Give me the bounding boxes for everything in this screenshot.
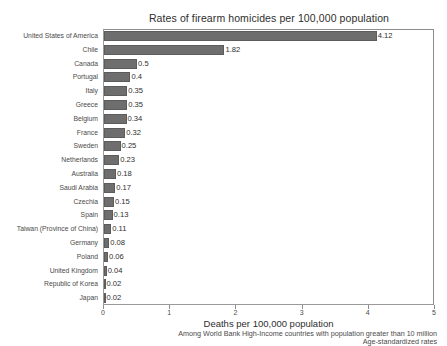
category-label: Czechia bbox=[0, 197, 98, 207]
bar bbox=[104, 59, 137, 69]
category-label: Poland bbox=[0, 252, 98, 262]
bar-row: 0.25 bbox=[104, 140, 433, 154]
bar-value-label: 0.32 bbox=[126, 127, 141, 138]
bar-value-label: 0.08 bbox=[110, 237, 125, 248]
bar-value-label: 0.34 bbox=[128, 113, 143, 124]
bar-row: 0.02 bbox=[104, 278, 433, 292]
category-label: Republic of Korea bbox=[0, 279, 98, 289]
bar-value-label: 1.82 bbox=[225, 44, 240, 55]
bar bbox=[104, 86, 127, 96]
category-label: Australia bbox=[0, 169, 98, 179]
bar-row: 0.08 bbox=[104, 237, 433, 251]
bar-row: 0.4 bbox=[104, 71, 433, 85]
bar-value-label: 0.4 bbox=[131, 71, 142, 82]
category-label: France bbox=[0, 128, 98, 138]
bar bbox=[104, 197, 114, 207]
category-label: Italy bbox=[0, 86, 98, 96]
category-label: Portugal bbox=[0, 72, 98, 82]
bar-value-label: 0.23 bbox=[120, 154, 135, 165]
bar bbox=[104, 72, 130, 82]
bar bbox=[104, 183, 115, 193]
category-label: Belgium bbox=[0, 114, 98, 124]
category-label: Sweden bbox=[0, 141, 98, 151]
bar-value-label: 0.35 bbox=[128, 85, 143, 96]
bar-row: 0.15 bbox=[104, 196, 433, 210]
category-label: United States of America bbox=[0, 31, 98, 41]
chart-title: Rates of firearm homicides per 100,000 p… bbox=[103, 12, 435, 24]
x-tick-label: 2 bbox=[233, 309, 237, 316]
bar bbox=[104, 266, 107, 276]
category-label: Japan bbox=[0, 293, 98, 303]
bar bbox=[104, 155, 119, 165]
bar-value-label: 0.06 bbox=[109, 251, 124, 262]
category-label: Germany bbox=[0, 238, 98, 248]
bar-row: 0.18 bbox=[104, 168, 433, 182]
category-label: Canada bbox=[0, 59, 98, 69]
bar-value-label: 0.5 bbox=[138, 58, 149, 69]
bar-value-label: 0.02 bbox=[107, 292, 122, 303]
x-tick-label: 4 bbox=[366, 309, 370, 316]
bar-row: 0.17 bbox=[104, 182, 433, 196]
footnote-line-2: Age-standardized rates bbox=[363, 337, 437, 346]
bar-value-label: 0.15 bbox=[115, 196, 130, 207]
x-tick-label: 3 bbox=[300, 309, 304, 316]
bar bbox=[104, 45, 224, 55]
bar-value-label: 0.35 bbox=[128, 99, 143, 110]
bar bbox=[104, 100, 127, 110]
bar bbox=[104, 224, 111, 234]
bar bbox=[104, 238, 109, 248]
bar-row: 0.06 bbox=[104, 251, 433, 265]
bar-value-label: 0.02 bbox=[107, 278, 122, 289]
bar-row: 0.23 bbox=[104, 154, 433, 168]
bar-value-label: 0.04 bbox=[108, 265, 123, 276]
bar-value-label: 0.18 bbox=[117, 168, 132, 179]
bar-value-label: 4.12 bbox=[378, 30, 393, 41]
bar-row: 0.11 bbox=[104, 223, 433, 237]
category-label: Greece bbox=[0, 100, 98, 110]
bar bbox=[104, 252, 108, 262]
bar bbox=[104, 31, 377, 41]
bar-row: 0.32 bbox=[104, 127, 433, 141]
category-label: Saudi Arabia bbox=[0, 183, 98, 193]
bar bbox=[104, 169, 116, 179]
bar-value-label: 0.25 bbox=[122, 140, 137, 151]
bar bbox=[104, 141, 121, 151]
firearm-homicide-bar-chart: Rates of firearm homicides per 100,000 p… bbox=[0, 0, 447, 346]
x-tick-label: 0 bbox=[101, 309, 105, 316]
x-axis-ticks: 012345 bbox=[103, 305, 434, 319]
x-tick-label: 5 bbox=[432, 309, 436, 316]
bar bbox=[104, 128, 125, 138]
bar-value-label: 0.17 bbox=[116, 182, 131, 193]
bar-row: 1.82 bbox=[104, 44, 433, 58]
category-label: Spain bbox=[0, 210, 98, 220]
x-axis-title: Deaths per 100,000 population bbox=[103, 318, 434, 329]
bar bbox=[104, 114, 127, 124]
bar-row: 0.5 bbox=[104, 58, 433, 72]
bar-row: 0.34 bbox=[104, 113, 433, 127]
bar-row: 4.12 bbox=[104, 30, 433, 44]
bar-row: 0.13 bbox=[104, 209, 433, 223]
bar-value-label: 0.13 bbox=[114, 209, 129, 220]
bar-value-label: 0.11 bbox=[112, 223, 126, 234]
category-label: United Kingdom bbox=[0, 266, 98, 276]
category-label: Netherlands bbox=[0, 155, 98, 165]
x-tick-label: 1 bbox=[167, 309, 171, 316]
bar-row: 0.02 bbox=[104, 292, 433, 306]
bar bbox=[104, 210, 113, 220]
bar-row: 0.35 bbox=[104, 99, 433, 113]
bar-row: 0.35 bbox=[104, 85, 433, 99]
bar-row: 0.04 bbox=[104, 265, 433, 279]
category-label: Taiwan (Province of China) bbox=[0, 224, 98, 234]
plot-area: 4.121.820.50.40.350.350.340.320.250.230.… bbox=[103, 29, 434, 305]
category-label: Chile bbox=[0, 45, 98, 55]
